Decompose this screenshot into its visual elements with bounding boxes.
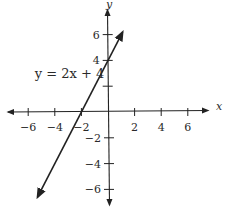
x-axis-label: x bbox=[216, 100, 223, 113]
y-tick-label: −2 bbox=[85, 132, 101, 145]
x-tick-label: 4 bbox=[158, 121, 165, 134]
y-tick-label: 4 bbox=[93, 54, 100, 67]
y-tick-label: −4 bbox=[85, 158, 101, 171]
x-tick-label: −6 bbox=[20, 121, 36, 134]
x-tick-label: 6 bbox=[184, 121, 191, 134]
series-line bbox=[38, 32, 123, 197]
coordinate-plane: −6−4−2246−6−4−246 x y y = 2x + 4 bbox=[0, 0, 226, 214]
y-axis bbox=[108, 10, 110, 205]
y-tick-label: 6 bbox=[93, 29, 100, 42]
equation-label: y = 2x + 4 bbox=[34, 66, 105, 81]
x-tick-label: −4 bbox=[47, 121, 63, 134]
x-tick-label: 2 bbox=[131, 121, 138, 134]
y-tick-label: −6 bbox=[85, 183, 101, 196]
y-axis-label: y bbox=[105, 0, 113, 11]
